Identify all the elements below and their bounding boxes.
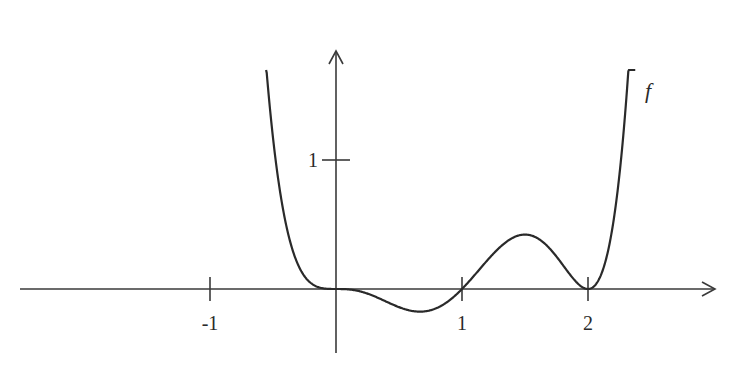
function-curve: [266, 70, 635, 312]
y-tick-label-1: 1: [308, 149, 318, 171]
x-tick-label-1: 1: [457, 312, 467, 334]
x-tick-label-minus1: -1: [202, 312, 219, 334]
x-tick-label-2: 2: [583, 312, 593, 334]
function-label: f: [645, 78, 654, 103]
function-plot: -1 1 2 1 f: [0, 0, 733, 366]
